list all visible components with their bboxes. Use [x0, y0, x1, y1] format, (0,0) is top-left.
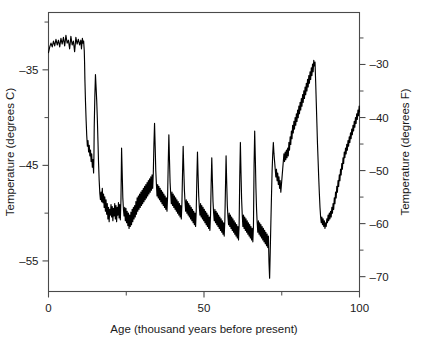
y-tick-label: –55	[19, 255, 38, 267]
y2-tick-label: –70	[370, 271, 389, 283]
y-tick-label: –35	[19, 64, 38, 76]
x-axis-title: Age (thousand years before present)	[110, 323, 297, 335]
y-axis-title-celsius: Temperature (degrees C)	[4, 88, 16, 217]
x-tick-label: 0	[45, 302, 51, 314]
temperature-chart-figure: 050100 –35–45–55 –30–40–50–60–70 Age (th…	[0, 0, 421, 339]
x-axis-ticks: 050100	[45, 292, 369, 314]
plot-frame	[49, 13, 360, 292]
y2-tick-label: –30	[370, 58, 389, 70]
y-axis-ticks-fahrenheit: –30–40–50–60–70	[360, 38, 389, 283]
x-tick-label: 100	[350, 302, 369, 314]
y-tick-label: –45	[19, 159, 38, 171]
y-axis-ticks-celsius: –35–45–55	[19, 22, 48, 267]
chart-canvas: 050100 –35–45–55 –30–40–50–60–70 Age (th…	[0, 0, 421, 339]
y2-tick-label: –50	[370, 165, 389, 177]
y2-tick-label: –40	[370, 112, 389, 124]
x-tick-label: 50	[198, 302, 211, 314]
y-axis-title-fahrenheit: Temperature (degrees F)	[399, 88, 411, 215]
temperature-series-line	[49, 35, 360, 278]
y2-tick-label: –60	[370, 218, 389, 230]
